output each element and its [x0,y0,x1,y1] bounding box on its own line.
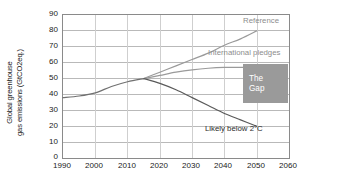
gap-label-line-1: The [249,74,263,84]
x-tick: 2060 [271,161,305,170]
x-tick: 2020 [142,161,176,170]
reference-label: Reference [243,16,279,25]
series-line-historical [63,79,144,98]
y-tick: 30 [36,106,58,114]
pledges-label: International pledges [208,48,280,57]
y-axis-ticks: 90 80 70 60 50 40 30 20 10 0 [31,0,58,185]
y-tick: 40 [36,90,58,98]
x-tick: 2040 [206,161,240,170]
emissions-gap-chart: Global greenhouse gas emissions (GtCO2eq… [0,0,340,185]
y-axis-title-line-1: Global greenhouse [5,49,15,136]
x-tick: 2010 [110,161,144,170]
x-tick: 2000 [77,161,111,170]
x-tick: 2030 [174,161,208,170]
y-axis-title: Global greenhouse gas emissions (GtCO2eq… [0,0,30,185]
y-axis-title-line-2: gas emissions (GtCO2eq.) [15,49,25,136]
x-tick: 2050 [239,161,273,170]
y-tick: 10 [36,138,58,146]
x-tick: 1990 [45,161,79,170]
y-tick: 90 [36,10,58,18]
gap-label-line-2: Gap [249,84,264,94]
y-tick: 80 [36,26,58,34]
y-tick: 20 [36,122,58,130]
y-tick: 60 [36,58,58,66]
x-axis-ticks: 1990 2000 2010 2020 2030 2040 2050 2060 [0,161,340,173]
series-line-likely-below-2-c [144,79,257,127]
y-tick: 50 [36,74,58,82]
series-line-international-pledges [144,67,257,78]
below-2c-label: Likely below 2°C [205,124,263,133]
y-tick: 70 [36,42,58,50]
y-tick: 0 [36,153,58,161]
the-gap-box: The Gap [243,64,288,103]
